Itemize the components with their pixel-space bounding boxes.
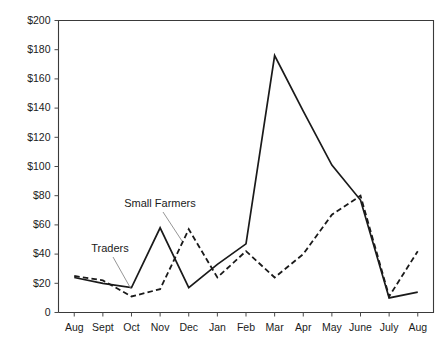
small-farmers-annotation-label: Small Farmers (124, 197, 196, 209)
y-axis-tick-label: $180 (27, 43, 51, 55)
small-farmers-leader-line (163, 212, 182, 241)
y-axis-tick-label: $60 (33, 218, 51, 230)
traders-annotation-label: Traders (91, 242, 129, 254)
y-axis-tick-label: $200 (27, 14, 51, 26)
x-axis-tick-label: Jan (209, 321, 226, 333)
plot-frame (59, 21, 434, 313)
y-axis-tick-label: $140 (27, 101, 51, 113)
annotation-group: Traders Small Farmers (91, 197, 196, 289)
x-axis-tick-label: Feb (237, 321, 255, 333)
x-axis-tick-marks (74, 313, 418, 317)
y-axis-tick-label: $120 (27, 131, 51, 143)
x-axis-tick-label: Oct (123, 321, 139, 333)
x-axis-tick-label: Aug (408, 321, 427, 333)
x-axis-tick-labels: AugSeptOctNovDecJanFebMarAprMayJuneJulyA… (65, 321, 427, 333)
y-axis-tick-label: 0 (45, 306, 51, 318)
y-axis-tick-label: $20 (33, 277, 51, 289)
traders-leader-line (113, 257, 131, 289)
x-axis-tick-label: Aug (65, 321, 84, 333)
series-group (74, 56, 418, 298)
line-chart: 0$20$40$60$80$100$120$140$160$180$200 Au… (0, 0, 447, 353)
y-axis-tick-label: $80 (33, 189, 51, 201)
y-axis-tick-label: $100 (27, 160, 51, 172)
y-axis-tick-label: $40 (33, 247, 51, 259)
y-axis-tick-labels: 0$20$40$60$80$100$120$140$160$180$200 (27, 14, 51, 318)
x-axis-tick-label: Mar (266, 321, 285, 333)
series-line-traders (74, 56, 418, 298)
x-axis-tick-label: Dec (179, 321, 198, 333)
plot-frame-group (59, 21, 434, 313)
x-axis-tick-label: Apr (295, 321, 312, 333)
x-axis-tick-label: Sept (92, 321, 114, 333)
x-axis-tick-label: Nov (151, 321, 170, 333)
y-axis-tick-marks (55, 21, 59, 313)
x-axis-tick-label: May (322, 321, 343, 333)
x-axis-tick-label: June (349, 321, 372, 333)
chart-canvas: 0$20$40$60$80$100$120$140$160$180$200 Au… (0, 0, 447, 353)
y-axis-tick-label: $160 (27, 72, 51, 84)
x-axis-tick-label: July (380, 321, 399, 333)
